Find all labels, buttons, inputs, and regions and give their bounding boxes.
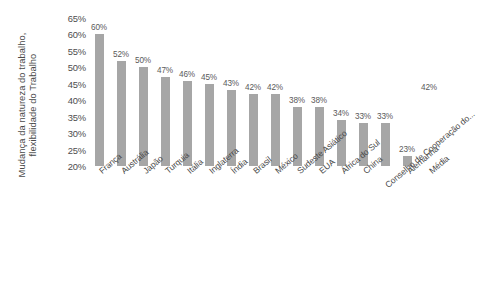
y-axis-tick-60: 60% <box>68 29 86 40</box>
plot-area: 60%52%50%47%46%45%43%42%42%38%38%34%33%3… <box>88 18 440 166</box>
bar-slot: 43% <box>220 18 242 166</box>
bar-value-label: 42% <box>245 83 261 92</box>
bar-value-label: 23% <box>399 145 415 154</box>
bar-series: 60%52%50%47%46%45%43%42%42%38%38%34%33%3… <box>88 18 440 166</box>
y-axis-tick-labels: 65%60%55%50%45%40%35%30%25%20% <box>52 18 86 166</box>
bar-slot: 42% <box>264 18 286 166</box>
bar-slot: 47% <box>154 18 176 166</box>
bar-slot: 45% <box>198 18 220 166</box>
y-axis-title: Mudança da natureza do trabalho, flexibi… <box>11 5 45 205</box>
bar-value-label: 43% <box>223 79 239 88</box>
x-axis-category-labels: FrançaAustráliaJapãoTurquiaItáliaInglate… <box>88 168 440 288</box>
y-axis-tick-20: 20% <box>68 161 86 172</box>
bar-slot: 42% <box>242 18 264 166</box>
bar <box>271 94 280 166</box>
y-axis-tick-45: 45% <box>68 78 86 89</box>
bar-value-label: 46% <box>179 70 195 79</box>
bar-slot: 52% <box>110 18 132 166</box>
bar-value-label: 33% <box>355 112 371 121</box>
bar-value-label: 47% <box>157 66 173 75</box>
bar <box>95 34 104 166</box>
bar-value-label: 33% <box>377 112 393 121</box>
y-axis-tick-35: 35% <box>68 111 86 122</box>
y-axis-title-line-2: flexibilidade do Trabalho <box>28 54 39 157</box>
bar-value-label: 60% <box>91 23 107 32</box>
bar-value-label: 42% <box>267 83 283 92</box>
y-axis-tick-65: 65% <box>68 13 86 24</box>
bar-value-label: 45% <box>201 73 217 82</box>
y-axis-tick-40: 40% <box>68 95 86 106</box>
bar <box>161 77 170 166</box>
bar-slot: 60% <box>88 18 110 166</box>
bar <box>117 61 126 166</box>
bar-value-label: 42% <box>421 83 437 92</box>
bar-slot: 46% <box>176 18 198 166</box>
bar-slot: 50% <box>132 18 154 166</box>
bar-slot: 23% <box>396 18 418 166</box>
y-axis-tick-30: 30% <box>68 128 86 139</box>
bar-value-label: 38% <box>311 96 327 105</box>
y-axis-tick-55: 55% <box>68 45 86 56</box>
y-axis-tick-50: 50% <box>68 62 86 73</box>
bar-value-label: 50% <box>135 56 151 65</box>
bar <box>205 84 214 166</box>
y-axis-title-line-1: Mudança da natureza do trabalho, <box>17 33 28 178</box>
bar-slot: 38% <box>286 18 308 166</box>
bar <box>249 94 258 166</box>
bar-value-label: 52% <box>113 50 129 59</box>
bar-value-label: 34% <box>333 109 349 118</box>
bar-value-label: 38% <box>289 96 305 105</box>
y-axis-tick-25: 25% <box>68 144 86 155</box>
